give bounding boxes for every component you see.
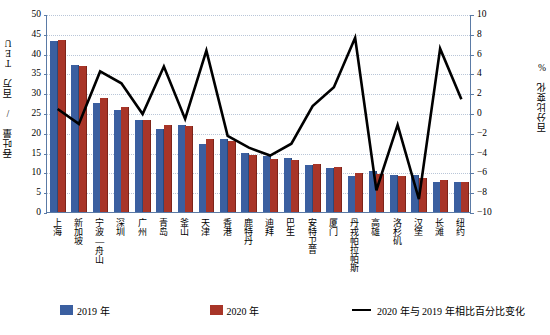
x-axis-label: 上海 (52, 218, 62, 236)
x-axis-label: 釜山 (179, 218, 189, 236)
x-axis-label: 汉堡 (413, 218, 423, 236)
x-axis-label: 鹿特丹 (243, 218, 253, 245)
percent-change-line (47, 15, 472, 213)
legend-label-2019: 2019 年 (77, 303, 110, 318)
y-tick-label-left: 30 (19, 89, 41, 99)
y-tick-label-left: 45 (19, 30, 41, 40)
port-throughput-chart: 吞吐量 / 百万 TEU 百分比变化 % 0510152025303540455… (0, 0, 550, 335)
x-axis-label: 深圳 (115, 218, 125, 236)
x-axis-label: 纽约 (455, 218, 465, 236)
x-axis-label: 长滩 (434, 218, 444, 236)
x-axis-label: 高雄 (370, 218, 380, 236)
legend-item-2019: 2019 年 (60, 303, 110, 318)
y-tick-label-left: 15 (19, 149, 41, 159)
y-tick-label-right: 8 (477, 30, 499, 40)
y-tick-label-left: 25 (19, 109, 41, 119)
y-tick-mark-right (470, 213, 474, 214)
plot-area (46, 15, 471, 213)
x-axis-label: 巴生 (285, 218, 295, 236)
y-tick-label-right: −10 (477, 208, 499, 218)
x-axis-label: 宁波—舟山 (94, 218, 104, 264)
y-tick-label-right: −2 (477, 129, 499, 139)
y-tick-label-right: −4 (477, 149, 499, 159)
legend-label-percent-change: 2020 年与 2019 年相比百分比变化 (377, 303, 525, 318)
y-tick-mark-left (44, 213, 48, 214)
legend-swatch-blue-icon (60, 305, 73, 315)
y-axis-right-title: 百分比变化 % (535, 62, 549, 132)
x-axis-label: 洛杉矶 (392, 218, 402, 245)
y-tick-label-left: 10 (19, 168, 41, 178)
legend-label-2020: 2020 年 (227, 303, 260, 318)
y-tick-label-right: 6 (477, 50, 499, 60)
x-axis-label: 厦门 (328, 218, 338, 236)
x-axis-label: 天津 (200, 218, 210, 236)
y-tick-label-right: 10 (477, 10, 499, 20)
y-tick-label-right: 0 (477, 109, 499, 119)
x-axis-label: 新加坡 (73, 218, 83, 245)
y-tick-label-left: 35 (19, 69, 41, 79)
x-axis-label: 青岛 (158, 218, 168, 236)
x-axis-label: 迪拜 (264, 218, 274, 236)
legend-swatch-line-icon (352, 309, 371, 311)
y-tick-label-right: 2 (477, 89, 499, 99)
y-tick-label-left: 50 (19, 10, 41, 20)
x-axis-label: 安特卫普 (307, 218, 317, 254)
y-tick-label-right: −6 (477, 168, 499, 178)
y-tick-label-left: 40 (19, 50, 41, 60)
chart-legend: 2019 年 2020 年 2020 年与 2019 年相比百分比变化 (0, 300, 550, 320)
x-axis-label: 丹戎帕拉帕斯 (349, 218, 359, 272)
legend-item-2020: 2020 年 (210, 303, 260, 318)
y-tick-label-left: 0 (19, 208, 41, 218)
y-tick-label-left: 20 (19, 129, 41, 139)
y-tick-label-right: −8 (477, 188, 499, 198)
x-axis-label: 广州 (137, 218, 147, 236)
legend-swatch-red-icon (210, 305, 223, 315)
y-tick-label-right: 4 (477, 69, 499, 79)
x-axis-label: 香港 (222, 218, 232, 236)
y-tick-label-left: 5 (19, 188, 41, 198)
y-axis-left-title: 吞吐量 / 百万 TEU (1, 38, 15, 158)
legend-item-percent-change: 2020 年与 2019 年相比百分比变化 (352, 303, 525, 318)
